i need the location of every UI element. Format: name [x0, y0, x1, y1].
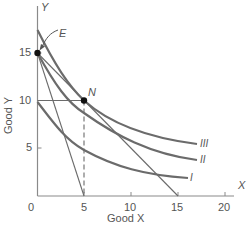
x-axis-letter: X [238, 180, 245, 191]
curve-label-i: I [190, 173, 193, 183]
y-tick-10: 10 [19, 95, 31, 106]
x-axis-title: Good X [107, 213, 144, 224]
y-tick-15: 15 [19, 47, 31, 58]
indifference-curve-i [38, 102, 189, 178]
budget-line-steep [38, 53, 85, 196]
point-n [81, 97, 87, 103]
chart-canvas [0, 0, 252, 226]
curve-label-iii: III [200, 139, 208, 149]
point-e [34, 50, 40, 56]
indifference-curve-chart: Y X E N III II I 15 10 5 0 5 10 15 20 Go… [0, 0, 252, 226]
x-tick-20: 20 [218, 202, 230, 213]
point-n-label: N [88, 87, 96, 98]
curve-label-ii: II [200, 155, 206, 165]
y-axis-title: Good Y [3, 97, 14, 134]
x-tick-15: 15 [171, 202, 183, 213]
y-axis-letter: Y [41, 2, 48, 13]
origin-label: 0 [28, 202, 34, 213]
point-e-label: E [59, 28, 66, 39]
x-tick-5: 5 [81, 202, 87, 213]
indifference-curve-ii [38, 53, 198, 160]
y-tick-5: 5 [26, 142, 32, 153]
